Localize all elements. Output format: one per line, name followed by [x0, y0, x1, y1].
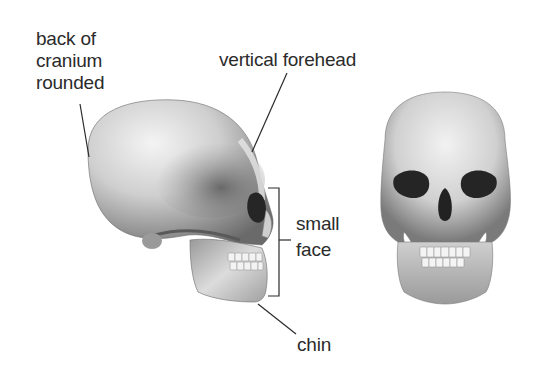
bracket-small-face [268, 188, 279, 296]
label-back-of-cranium: back of cranium rounded [36, 28, 104, 94]
skull-side-view [88, 100, 273, 302]
leader-chin [258, 304, 296, 334]
mandible-side [190, 239, 267, 302]
label-small-face-line1: small [296, 213, 339, 235]
label-vertical-forehead: vertical forehead [219, 49, 356, 71]
label-back-of-cranium-line1: back of [36, 28, 104, 50]
label-small-face-line2: face [296, 239, 339, 261]
label-chin: chin [297, 334, 331, 356]
leader-back-of-cranium [80, 104, 89, 157]
label-small-face: small face [296, 213, 339, 261]
leader-forehead [252, 73, 287, 152]
label-back-of-cranium-line2: cranium [36, 50, 104, 72]
label-back-of-cranium-line3: rounded [36, 72, 104, 94]
skull-front-view [381, 92, 511, 304]
teeth-front [420, 247, 470, 267]
